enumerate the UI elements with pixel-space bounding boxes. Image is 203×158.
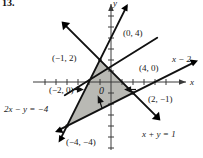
line-label-2x-minus-y: 2x − y = −4	[4, 105, 48, 114]
point-label-neg2-0: (−2, 0)	[49, 86, 74, 95]
figure-container: 13.	[0, 0, 203, 158]
line-label-x-minus-2y: x − 2	[172, 55, 191, 64]
x-axis-arrow	[179, 79, 186, 85]
point-label-0-4: (0, 4)	[123, 29, 143, 38]
point-label-2-neg1: (2, −1)	[148, 95, 173, 104]
line-x-plus-y-equals-1	[0, 0, 157, 95]
point-label-4-0: (4, 0)	[139, 64, 159, 73]
point-label-neg4-neg4: (−4, −4)	[66, 138, 96, 147]
y-axis-label: y	[113, 0, 117, 8]
x-axis-label: x	[190, 78, 194, 87]
line-label-x-plus-y: x + y = 1	[142, 130, 176, 139]
line-2x-minus-y-equals-neg4	[59, 4, 128, 143]
origin-label: 0	[99, 86, 104, 96]
line-x-minus-2y	[55, 60, 198, 133]
point-label-neg1-2: (−1, 2)	[52, 54, 77, 63]
